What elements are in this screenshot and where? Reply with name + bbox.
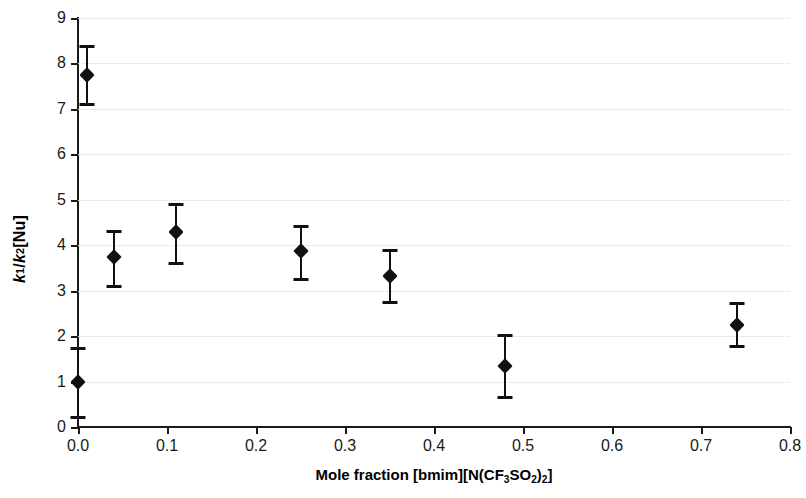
data-point-marker: [106, 249, 122, 265]
y-axis-tick: [71, 427, 78, 429]
data-point-marker: [382, 268, 398, 284]
gridline-y: [78, 200, 790, 201]
error-bar-cap-upper: [106, 230, 121, 233]
y-axis-tick-label: 7: [57, 101, 66, 117]
error-bar-cap-lower: [498, 396, 513, 399]
x-axis-tick-label: 0.5: [512, 438, 534, 454]
x-axis-tick: [256, 427, 258, 434]
x-axis-tick: [701, 427, 703, 434]
x-axis-tick-label: 0.1: [156, 438, 178, 454]
y-axis-tick: [71, 63, 78, 65]
x-axis-tick: [345, 427, 347, 434]
error-bar-cap-upper: [168, 203, 183, 206]
error-bar-cap-lower: [106, 285, 121, 288]
y-axis-title-nu: [Nu]: [11, 215, 29, 248]
error-bar-cap-lower: [729, 345, 744, 348]
y-axis-tick: [71, 245, 78, 247]
gridline-y: [78, 154, 790, 155]
x-axis-title-suffix: ]: [548, 466, 553, 483]
y-axis-tick: [71, 291, 78, 293]
gridline-y: [78, 18, 790, 19]
error-bar-cap-upper: [498, 334, 513, 337]
data-point-marker: [79, 67, 95, 83]
x-axis-tick: [78, 427, 80, 434]
x-axis-tick-label: 0.2: [245, 438, 267, 454]
x-axis-title-prefix: Mole fraction [bmim][N(CF: [315, 466, 503, 483]
x-axis-tick-label: 0.4: [423, 438, 445, 454]
y-axis-title-k2: k: [11, 254, 29, 263]
y-axis-tick-label: 8: [57, 55, 66, 71]
y-axis-tick-label: 9: [57, 10, 66, 26]
x-axis-tick: [612, 427, 614, 434]
y-axis-title-k1-sub: 1: [14, 268, 26, 274]
data-point-marker: [168, 224, 184, 240]
y-axis-title: k1 / k2[Nu]: [0, 0, 40, 498]
x-axis-tick-label: 0.0: [67, 438, 89, 454]
error-bar-cap-upper: [382, 249, 397, 252]
x-axis-tick-label: 0.7: [690, 438, 712, 454]
gridline-y: [78, 63, 790, 64]
x-axis-tick: [434, 427, 436, 434]
x-axis-tick-label: 0.3: [334, 438, 356, 454]
x-axis-tick: [523, 427, 525, 434]
y-axis-tick: [71, 200, 78, 202]
error-bar-cap-lower: [79, 103, 94, 106]
data-point-marker: [497, 358, 513, 374]
y-axis-tick-label: 2: [57, 328, 66, 344]
x-axis-tick: [167, 427, 169, 434]
chart-figure: k1 / k2[Nu] 01234567890.00.10.20.30.40.5…: [0, 0, 806, 498]
y-axis-tick: [71, 154, 78, 156]
gridline-y: [78, 291, 790, 292]
y-axis-tick-label: 0: [57, 419, 66, 435]
x-axis-tick-label: 0.8: [779, 438, 801, 454]
error-bar-cap-lower: [382, 301, 397, 304]
plot-area: 01234567890.00.10.20.30.40.50.60.70.8: [78, 18, 790, 427]
x-axis-title: Mole fraction [bmim][N(CF3SO2)2]: [78, 466, 790, 485]
gridline-y: [78, 336, 790, 337]
y-axis-title-k1: k: [11, 274, 29, 283]
y-axis-tick: [71, 18, 78, 20]
gridline-y: [78, 245, 790, 246]
error-bar-cap-lower: [293, 278, 308, 281]
gridline-y: [78, 109, 790, 110]
y-axis-tick: [71, 336, 78, 338]
y-axis-tick: [71, 109, 78, 111]
y-axis-tick-label: 5: [57, 192, 66, 208]
gridline-y: [78, 382, 790, 383]
error-bar-cap-upper: [293, 225, 308, 228]
y-axis-title-k2-sub: 2: [14, 248, 26, 254]
x-axis-tick: [790, 427, 792, 434]
error-bar-cap-upper: [729, 302, 744, 305]
y-axis-title-slash: /: [11, 263, 29, 268]
error-bar-cap-lower: [71, 416, 86, 419]
error-bar-cap-lower: [168, 262, 183, 265]
x-axis-title-mid: SO: [509, 466, 531, 483]
data-point-marker: [729, 317, 745, 333]
error-bar-cap-upper: [71, 347, 86, 350]
y-axis-tick-label: 6: [57, 146, 66, 162]
x-axis-tick-label: 0.6: [601, 438, 623, 454]
error-bar-cap-upper: [79, 45, 94, 48]
y-axis-tick-label: 3: [57, 283, 66, 299]
y-axis-tick-label: 4: [57, 237, 66, 253]
y-axis-tick-label: 1: [57, 374, 66, 390]
data-point-marker: [70, 374, 86, 390]
